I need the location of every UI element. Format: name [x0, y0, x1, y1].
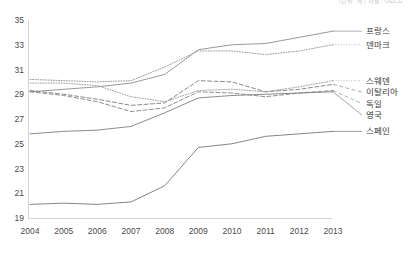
legend-label-6: 스페인 — [366, 126, 390, 136]
legend-label-5: 영국 — [366, 110, 382, 120]
line-chart: (단위: 세) 자료: OECD 192123252729313335 2004… — [0, 0, 409, 256]
legend-label-4: 독일 — [366, 99, 382, 109]
legend-label-2: 스웨덴 — [366, 76, 390, 86]
legend-label-1: 덴마크 — [366, 40, 390, 50]
legend-label-3: 이탈리아 — [366, 87, 398, 97]
chart-legend: 프랑스덴마크스웨덴이탈리아독일영국스페인 — [0, 0, 409, 256]
legend-label-0: 프랑스 — [366, 26, 390, 36]
